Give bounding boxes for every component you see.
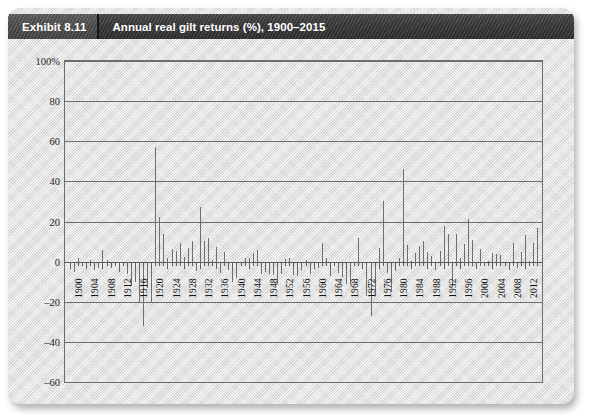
x-axis-tick: [86, 262, 87, 269]
x-axis-tick: [107, 262, 108, 266]
x-axis-tick: [464, 262, 465, 266]
x-axis-tick: [375, 262, 376, 266]
x-axis-tick: [285, 262, 286, 266]
x-axis-tick: [505, 262, 506, 266]
x-axis-tick: [330, 262, 331, 269]
x-axis-tick: [318, 262, 319, 266]
y-axis-tick-label: 20: [50, 216, 61, 227]
x-axis-tick: [269, 262, 270, 266]
x-axis-tick: [232, 262, 233, 269]
x-axis-tick: [460, 262, 461, 269]
x-axis-tick-label: 1952: [285, 278, 295, 298]
x-axis-tick: [253, 262, 254, 266]
x-axis-tick: [452, 262, 453, 266]
x-axis-tick: [488, 262, 489, 266]
chart-bar: [407, 245, 408, 262]
x-axis-tick-label: 2000: [480, 278, 490, 298]
x-axis-tick: [362, 262, 363, 269]
x-axis-tick: [98, 262, 99, 266]
x-axis-tick: [314, 262, 315, 269]
y-axis-tick-label: 0: [55, 256, 60, 267]
x-axis-tick: [180, 262, 181, 266]
chart-bar: [322, 243, 323, 262]
chart-bar: [224, 252, 225, 262]
x-axis-tick: [196, 262, 197, 266]
x-axis-tick-label: 1924: [172, 278, 182, 298]
chart-bar: [415, 253, 416, 262]
x-axis-tick: [127, 262, 128, 266]
x-axis-tick: [147, 262, 148, 266]
x-axis-tick: [212, 262, 213, 266]
x-axis-tick: [155, 262, 156, 266]
x-axis-tick: [448, 262, 449, 266]
chart-plot-area: –60–40–20020406080100%190019041908191219…: [65, 61, 542, 382]
chart-bar: [192, 241, 193, 262]
x-axis-tick: [403, 262, 404, 266]
gridline: [65, 222, 542, 223]
chart-bar: [525, 235, 526, 262]
y-axis-tick-label: 40: [50, 176, 61, 187]
x-axis-tick-label: 1928: [188, 278, 198, 298]
x-axis-tick: [184, 262, 185, 269]
x-axis-tick: [326, 262, 327, 266]
chart-bar: [513, 243, 514, 262]
x-axis-tick: [143, 262, 144, 266]
x-axis-tick: [322, 262, 323, 266]
x-axis-tick: [204, 262, 205, 266]
x-axis-tick: [277, 262, 278, 266]
x-axis-tick: [399, 262, 400, 266]
x-axis-tick: [334, 262, 335, 266]
chart-bar: [358, 238, 359, 262]
x-axis-tick: [70, 262, 71, 269]
x-axis-tick: [456, 262, 457, 266]
x-axis-tick: [366, 262, 367, 266]
x-axis-tick: [496, 262, 497, 266]
x-axis-tick: [354, 262, 355, 266]
chart-bar: [216, 247, 217, 262]
exhibit-header: Exhibit 8.11 Annual real gilt returns (%…: [8, 14, 574, 39]
x-axis-tick: [500, 262, 501, 266]
x-axis-tick: [188, 262, 189, 266]
x-axis-tick: [265, 262, 266, 269]
chart-bar: [468, 219, 469, 261]
x-axis-tick: [435, 262, 436, 266]
x-axis-tick-label: 1988: [432, 278, 442, 298]
gridline: [65, 141, 542, 142]
x-axis-tick: [383, 262, 384, 266]
x-axis-tick: [537, 262, 538, 266]
chart-bar: [204, 241, 205, 262]
x-axis-tick: [509, 262, 510, 269]
x-axis-tick: [419, 262, 420, 266]
x-axis-tick: [74, 262, 75, 266]
chart-bar: [427, 252, 428, 262]
x-axis-tick: [192, 262, 193, 266]
y-axis-tick-label: 80: [50, 96, 61, 107]
x-axis-tick: [249, 262, 250, 269]
chart-bar: [102, 250, 103, 262]
x-axis-tick-label: 1980: [399, 278, 409, 298]
x-axis-tick: [525, 262, 526, 269]
chart-bar: [379, 248, 380, 262]
gridline: [65, 342, 542, 343]
chart-bar: [533, 243, 534, 262]
x-axis-tick: [102, 262, 103, 269]
zero-axis-line: [65, 262, 542, 263]
chart-bar: [496, 254, 497, 262]
x-axis-tick: [338, 262, 339, 266]
gridline: [65, 382, 542, 383]
chart-bar: [480, 249, 481, 262]
chart-bar: [253, 253, 254, 262]
x-axis-tick: [261, 262, 262, 266]
chart-bar: [444, 226, 445, 262]
x-axis-tick: [151, 262, 152, 269]
chart-bar: [155, 147, 156, 261]
x-axis-tick: [115, 262, 116, 266]
x-axis-tick-label: 2012: [529, 278, 539, 298]
x-axis-tick: [517, 262, 518, 266]
chart-plot-frame: –60–40–20020406080100%190019041908191219…: [64, 60, 543, 383]
x-axis-tick: [484, 262, 485, 266]
x-axis-tick: [119, 262, 120, 269]
x-axis-tick: [289, 262, 290, 266]
x-axis-tick-label: 1932: [204, 278, 214, 298]
x-axis-tick: [472, 262, 473, 266]
